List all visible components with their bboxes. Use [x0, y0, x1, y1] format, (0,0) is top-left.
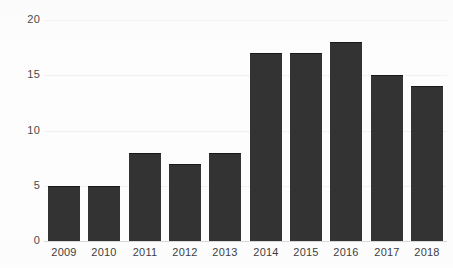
bar — [169, 164, 201, 241]
bars-layer — [44, 20, 447, 241]
bar — [129, 153, 161, 241]
y-axis-tick-label: 0 — [6, 235, 40, 246]
bar — [330, 42, 362, 241]
y-axis-tick-label: 5 — [6, 180, 40, 191]
bar — [411, 86, 443, 241]
x-axis-tick-label: 2010 — [81, 245, 127, 259]
x-axis: 2009201020112012201320142015201620172018 — [44, 245, 447, 265]
y-axis-tick-label: 15 — [6, 69, 40, 80]
bar — [209, 153, 241, 241]
y-axis: 05101520 — [0, 0, 40, 268]
bar — [250, 53, 282, 241]
x-axis-baseline — [44, 241, 447, 242]
bar — [88, 186, 120, 241]
bar-chart: 05101520 2009201020112012201320142015201… — [0, 0, 453, 268]
x-axis-tick-label: 2013 — [202, 245, 248, 259]
bar — [371, 75, 403, 241]
y-axis-tick-label: 20 — [6, 14, 40, 25]
bar — [290, 53, 322, 241]
x-axis-tick-label: 2016 — [323, 245, 369, 259]
y-axis-tick-label: 10 — [6, 125, 40, 136]
bar — [48, 186, 80, 241]
x-axis-tick-label: 2018 — [404, 245, 450, 259]
